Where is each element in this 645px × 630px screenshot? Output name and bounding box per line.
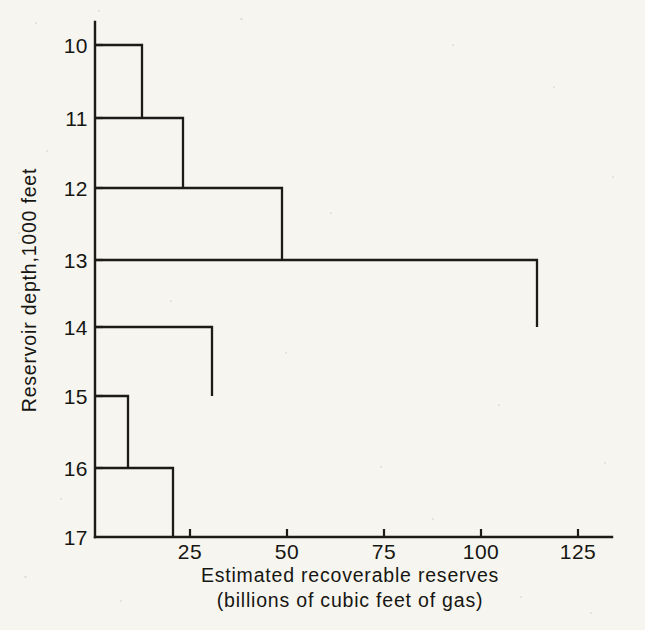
y-tick-label: 11 [65,107,88,130]
y-tick-label: 17 [64,526,88,549]
x-tick-label: 100 [463,540,500,563]
bar-15-16 [95,396,128,468]
x-tick-labels: 25 50 75 100 125 [178,540,596,563]
bar-13-14 [95,260,537,327]
bar-10-11 [95,45,142,118]
y-tick-label: 14 [64,316,88,339]
bar-16-17 [95,468,173,537]
x-tick-label: 125 [560,540,597,563]
x-axis-title-line1: Estimated recoverable reserves [201,564,499,586]
y-tick-label: 12 [64,177,88,200]
y-tick-label: 10 [64,34,88,57]
x-axis-title-line2: (billions of cubic feet of gas) [217,589,484,611]
chart-canvas: 10 11 12 13 14 15 16 17 25 50 75 100 125 [0,0,645,630]
y-tick-label: 15 [64,385,88,408]
y-tick-label: 13 [64,249,88,272]
y-tick-labels: 10 11 12 13 14 15 16 17 [64,34,88,549]
y-tick-label: 16 [64,457,88,480]
bar-12-13 [95,188,282,260]
chart-figure: 10 11 12 13 14 15 16 17 25 50 75 100 125 [0,0,645,630]
x-tick-label: 75 [372,540,396,563]
x-tick-label: 25 [178,540,202,563]
bar-14-15 [95,327,212,396]
y-axis-title: Reservoir depth,1000 feet [18,168,40,412]
bar-series [95,45,537,537]
bar-11-12 [95,118,183,188]
x-tick-label: 50 [275,540,299,563]
